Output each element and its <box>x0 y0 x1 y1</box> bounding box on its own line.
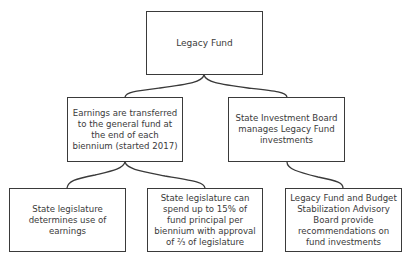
node-text: State Investment Board manages Legacy Fu… <box>233 113 340 146</box>
node-text: Earnings are transferred to the general … <box>72 108 178 152</box>
node-text: State legislature determines use of earn… <box>14 204 121 237</box>
edge-root-earnings <box>125 75 204 97</box>
edge-earnings-leguse <box>67 162 125 188</box>
node-legacy-fund: Legacy Fund <box>146 11 263 75</box>
node-text: State legislature can spend up to 15% of… <box>152 193 258 248</box>
edge-earnings-legspend <box>125 162 205 188</box>
edge-sib-advisory <box>287 162 343 188</box>
node-text: Legacy Fund and Budget Stabilization Adv… <box>290 193 397 248</box>
node-legislature-spend-principal: State legislature can spend up to 15% of… <box>147 188 263 252</box>
node-state-investment-board: State Investment Board manages Legacy Fu… <box>228 97 345 162</box>
node-earnings-transfer: Earnings are transferred to the general … <box>67 97 183 162</box>
edge-root-sib <box>204 75 287 97</box>
node-legislature-determines-use: State legislature determines use of earn… <box>9 188 126 252</box>
node-text: Legacy Fund <box>176 38 233 49</box>
node-advisory-board: Legacy Fund and Budget Stabilization Adv… <box>285 188 402 252</box>
